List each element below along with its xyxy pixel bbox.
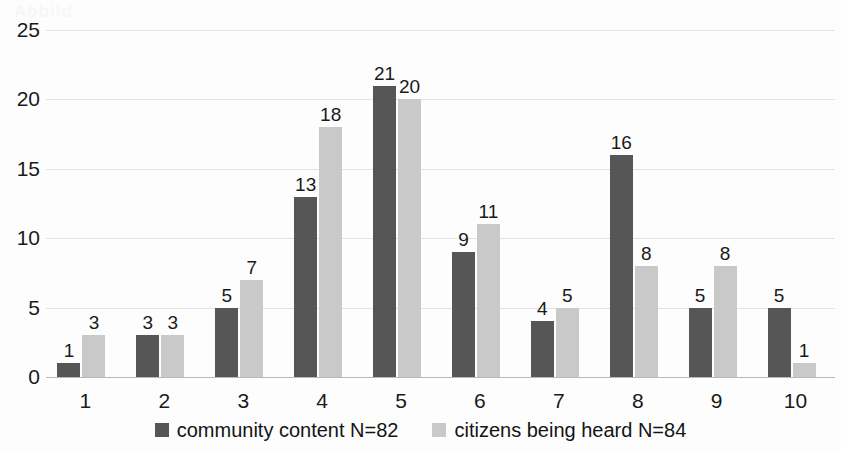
- bar-value-label: 16: [604, 133, 639, 152]
- bar: [477, 224, 500, 377]
- bar-value-label: 5: [683, 286, 718, 305]
- bar-value-label: 20: [392, 77, 427, 96]
- x-tick-label: 1: [46, 390, 125, 411]
- x-tick-label: 3: [204, 390, 283, 411]
- y-tick-label: 5: [0, 297, 40, 318]
- bar-value-label: 1: [787, 341, 822, 360]
- bar-value-label: 3: [76, 313, 111, 332]
- bar: [556, 308, 579, 377]
- bar-value-label: 11: [471, 202, 506, 221]
- bar-value-label: 5: [209, 286, 244, 305]
- bar-value-label: 8: [629, 244, 664, 263]
- bar-value-label: 9: [446, 230, 481, 249]
- bar-chart: Abbild 0510152025 1333571318212091145168…: [0, 0, 841, 452]
- legend-label: community content N=82: [177, 420, 399, 440]
- y-tick-label: 20: [0, 88, 40, 109]
- bar-value-label: 7: [234, 258, 269, 277]
- x-tick-label: 10: [756, 390, 835, 411]
- y-tick-label: 0: [0, 366, 40, 387]
- bar: [793, 363, 816, 377]
- gridline: [46, 169, 835, 170]
- bar-value-label: 13: [288, 175, 323, 194]
- bar: [161, 335, 184, 377]
- legend-swatch-icon: [155, 423, 169, 437]
- x-tick-label: 4: [283, 390, 362, 411]
- bar: [240, 280, 263, 377]
- bar: [714, 266, 737, 377]
- legend-item[interactable]: community content N=82: [155, 420, 399, 440]
- bar: [398, 99, 421, 377]
- x-tick-label: 2: [125, 390, 204, 411]
- bar-value-label: 5: [762, 286, 797, 305]
- bar: [82, 335, 105, 377]
- bar: [452, 252, 475, 377]
- bar: [215, 308, 238, 377]
- x-axis: 12345678910: [46, 385, 835, 411]
- x-tick-label: 6: [441, 390, 520, 411]
- bar: [610, 155, 633, 377]
- bar: [136, 335, 159, 377]
- bar: [689, 308, 712, 377]
- bar: [57, 363, 80, 377]
- gridline: [46, 99, 835, 100]
- bar: [319, 127, 342, 377]
- bar-value-label: 5: [550, 286, 585, 305]
- x-tick-label: 8: [598, 390, 677, 411]
- x-tick-label: 5: [362, 390, 441, 411]
- gridline: [46, 30, 835, 31]
- x-tick-label: 7: [519, 390, 598, 411]
- bar-value-label: 18: [313, 105, 348, 124]
- gridline: [46, 238, 835, 239]
- legend-item[interactable]: citizens being heard N=84: [432, 420, 686, 440]
- bar: [373, 86, 396, 377]
- bar-value-label: 1: [51, 341, 86, 360]
- legend-label: citizens being heard N=84: [454, 420, 686, 440]
- y-axis: 0510152025: [0, 30, 40, 377]
- legend-swatch-icon: [432, 423, 446, 437]
- y-tick-label: 10: [0, 227, 40, 248]
- y-tick-label: 25: [0, 19, 40, 40]
- chart-legend: community content N=82citizens being hea…: [0, 420, 841, 440]
- plot-area: 13335713182120911451685851: [46, 30, 835, 377]
- y-tick-label: 15: [0, 158, 40, 179]
- bar-value-label: 3: [155, 313, 190, 332]
- bar: [294, 197, 317, 377]
- gridline: [46, 377, 835, 378]
- bar: [531, 321, 554, 377]
- bar-value-label: 8: [708, 244, 743, 263]
- bar: [635, 266, 658, 377]
- x-tick-label: 9: [677, 390, 756, 411]
